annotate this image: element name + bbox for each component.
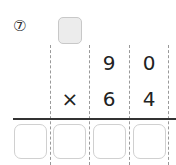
- multiplicand-ones: 0: [130, 51, 168, 75]
- answer-box-tens[interactable]: [93, 124, 126, 159]
- multiplier-ones: 4: [130, 87, 168, 111]
- answer-box-thousands[interactable]: [14, 124, 47, 159]
- multiplicand-tens: 9: [90, 51, 128, 75]
- multiply-operator: ×: [51, 87, 89, 111]
- answer-box-ones[interactable]: [133, 124, 166, 159]
- sum-rule: [13, 118, 176, 120]
- carry-input-box[interactable]: [58, 17, 82, 44]
- column-divider: [168, 45, 169, 165]
- problem-number: ⑦: [13, 16, 26, 36]
- multiplier-tens: 6: [90, 87, 128, 111]
- answer-box-hundreds[interactable]: [53, 124, 86, 159]
